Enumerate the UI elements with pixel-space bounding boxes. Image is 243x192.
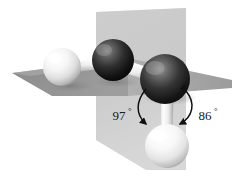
- angle-86-label: 86: [199, 108, 213, 123]
- atom-o-left: [92, 39, 134, 81]
- angle-97-degree-symbol: °: [128, 106, 132, 116]
- angle-86-degree-symbol: °: [214, 106, 218, 116]
- molecular-diagram-figure: 97 ° 86 °: [0, 0, 243, 192]
- figure-canvas: 97 ° 86 °: [0, 0, 243, 192]
- angle-97-label: 97: [113, 108, 127, 123]
- atom-o-right: [140, 54, 190, 104]
